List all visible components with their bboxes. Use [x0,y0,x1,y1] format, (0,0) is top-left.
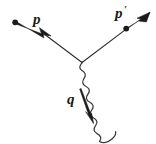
photon-wave-path [80,63,101,142]
incoming-fermion-shaft-thin [44,34,83,63]
incoming-fermion-endpoint-dot [12,19,18,25]
label-photon-momentum-q: q [67,91,75,107]
outgoing-fermion-shaft-thin [82,29,127,63]
incoming-fermion-line-p [12,19,82,62]
outgoing-fermion-endpoint-dot [123,26,129,32]
label-outgoing-momentum-p: p [113,5,123,21]
label-incoming-momentum-p: p [31,11,41,27]
feynman-diagram-figure: p p ′ q [0,0,156,144]
label-outgoing-momentum-prime-mark: ′ [124,4,127,15]
diagram-canvas: p p ′ q [0,0,156,144]
photon-wave-tail [100,132,116,143]
photon-momentum-arrow-q [80,88,94,123]
